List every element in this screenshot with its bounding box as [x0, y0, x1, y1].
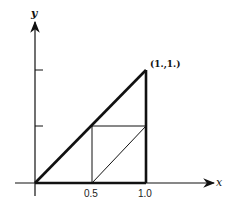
x-tick-label-0-5: 0.5: [84, 188, 98, 199]
diagram-canvas: y x (1.,1.) 0.5 1.0: [0, 0, 232, 209]
y-axis-label: y: [30, 7, 39, 20]
point-label: (1.,1.): [150, 59, 180, 70]
x-tick-label-1-0: 1.0: [138, 188, 152, 199]
x-axis-label: x: [216, 176, 223, 189]
inner-diagonal: [92, 126, 146, 183]
